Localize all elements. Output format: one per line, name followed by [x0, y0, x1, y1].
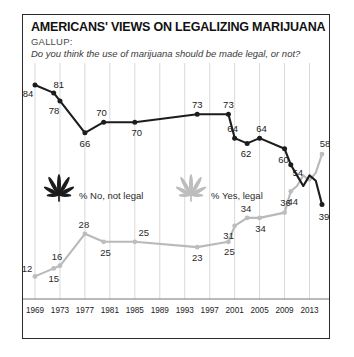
data-label: 70	[96, 107, 107, 118]
legend-label-yes: % Yes, legal	[211, 190, 263, 201]
data-point	[288, 189, 293, 194]
data-label: 34	[241, 203, 252, 214]
legend-item-yes: % Yes, legal	[175, 174, 263, 202]
legend-label-no: % No, not legal	[79, 190, 143, 201]
data-point	[320, 152, 325, 157]
data-point	[226, 112, 231, 117]
data-point	[132, 239, 137, 244]
chart-legend: % No, not legal	[43, 174, 263, 202]
chart-source: GALLUP:	[31, 36, 73, 47]
x-tick-2009: 2009	[275, 306, 294, 315]
data-point	[83, 231, 88, 236]
series-line-yes	[35, 154, 322, 276]
data-label: 81	[53, 79, 64, 90]
data-label: 64	[227, 123, 238, 134]
chart-card: AMERICANS' VIEWS ON LEGALIZING MARIJUANA…	[22, 14, 330, 339]
data-label: 54	[293, 167, 304, 178]
series-no-not-legal-line	[35, 85, 322, 205]
x-tick-1969: 1969	[26, 306, 45, 315]
x-tick-1989: 1989	[151, 306, 170, 315]
data-label: 31	[223, 230, 234, 241]
data-label: 28	[79, 219, 90, 230]
data-label: 12	[23, 263, 32, 274]
x-tick-1997: 1997	[201, 306, 220, 315]
legend-item-no: % No, not legal	[43, 174, 143, 202]
page-title: AMERICANS' VIEWS ON LEGALIZING MARIJUANA	[31, 20, 325, 34]
data-point	[232, 223, 237, 228]
data-label: 25	[139, 227, 150, 238]
series-yes-legal-line	[35, 154, 322, 276]
data-point	[57, 98, 62, 103]
x-tick-1985: 1985	[126, 306, 145, 315]
data-label: 62	[241, 148, 252, 159]
data-label: 15	[48, 273, 59, 284]
data-point	[51, 90, 56, 95]
x-axis-tick-labels: 1969197319771981198519891993199720012005…	[26, 306, 319, 315]
x-tick-1973: 1973	[51, 306, 70, 315]
series-line-no	[35, 85, 322, 205]
chart-question: Do you think the use of marijuana should…	[31, 48, 300, 59]
data-point	[320, 202, 325, 207]
marijuana-leaf-icon	[175, 174, 207, 202]
data-label: 39	[319, 211, 329, 222]
data-label: 64	[256, 123, 267, 134]
data-point	[282, 210, 287, 215]
data-point	[245, 215, 250, 220]
data-point	[33, 274, 38, 279]
x-tick-1993: 1993	[176, 306, 195, 315]
line-chart-svg: 1215162825252325313434364458 84817866707…	[23, 63, 329, 338]
x-tick-1981: 1981	[101, 306, 120, 315]
chart-plot-area: 1215162825252325313434364458 84817866707…	[23, 63, 329, 338]
gridlines	[35, 63, 310, 299]
data-point	[257, 215, 262, 220]
data-point	[195, 112, 200, 117]
data-point	[58, 263, 63, 268]
data-point	[82, 130, 87, 135]
data-point	[245, 141, 250, 146]
data-label: 84	[23, 88, 33, 99]
series-yes-legal-points	[33, 152, 325, 279]
data-point	[132, 120, 137, 125]
data-label: 25	[224, 246, 235, 257]
x-tick-2001: 2001	[226, 306, 245, 315]
data-label: 25	[100, 247, 111, 258]
data-point	[51, 266, 56, 271]
x-tick-1977: 1977	[76, 306, 95, 315]
data-point	[282, 146, 287, 151]
x-tick-2005: 2005	[250, 306, 269, 315]
data-point	[101, 120, 106, 125]
data-label: 66	[80, 138, 91, 149]
data-label: 60	[278, 154, 289, 165]
data-label: 23	[192, 252, 203, 263]
data-label: 73	[192, 99, 203, 110]
data-point	[195, 245, 200, 250]
data-point	[257, 136, 262, 141]
x-tick-2013: 2013	[300, 306, 319, 315]
marijuana-leaf-icon	[43, 174, 75, 202]
data-label: 58	[320, 138, 329, 149]
data-label: 34	[255, 223, 266, 234]
data-label: 44	[288, 196, 299, 207]
data-label: 70	[132, 127, 143, 138]
data-point	[101, 239, 106, 244]
data-label: 16	[52, 251, 63, 262]
data-label: 73	[223, 99, 234, 110]
data-point	[232, 136, 237, 141]
data-label: 78	[49, 105, 60, 116]
data-point	[33, 82, 38, 87]
